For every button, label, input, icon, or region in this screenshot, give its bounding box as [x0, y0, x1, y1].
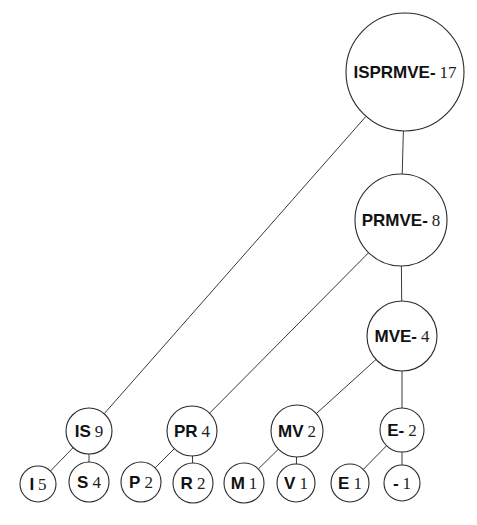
node-symbols: PRMVE-: [362, 211, 428, 230]
node-symbols: PR: [174, 422, 198, 441]
node-label: ISPRMVE-17: [353, 63, 457, 82]
tree-node: S4: [69, 462, 109, 502]
node-count: 1: [403, 474, 412, 493]
tree-edge: [104, 116, 366, 413]
node-count: 8: [432, 211, 441, 230]
node-symbols: E: [338, 474, 349, 493]
node-label: E-2: [387, 421, 417, 440]
node-symbols: P: [129, 473, 140, 492]
tree-node: -1: [384, 465, 420, 501]
tree-node: P2: [121, 462, 161, 502]
node-count: 2: [308, 422, 317, 441]
node-circle: [121, 462, 161, 502]
node-label: -1: [393, 474, 411, 493]
huffman-tree-diagram: ISPRMVE-17PRMVE-8MVE-4IS9PR4MV2E-2I5S4P2…: [0, 0, 477, 525]
node-circle: [331, 464, 369, 502]
tree-node: PR4: [167, 406, 217, 456]
node-count: 2: [144, 473, 153, 492]
node-count: 1: [299, 474, 308, 493]
node-count: 17: [440, 63, 458, 82]
node-count: 1: [249, 474, 258, 493]
tree-node: I5: [20, 466, 56, 502]
node-symbols: M: [231, 474, 245, 493]
tree-node: E1: [331, 464, 369, 502]
node-label: IS9: [75, 422, 104, 441]
node-symbols: -: [393, 474, 399, 493]
node-count: 9: [95, 422, 104, 441]
node-symbols: IS: [75, 422, 91, 441]
node-symbols: MVE-: [375, 327, 418, 346]
tree-edge: [51, 448, 74, 471]
node-symbols: V: [284, 474, 296, 493]
node-label: I5: [29, 475, 46, 494]
node-label: PR4: [174, 422, 211, 441]
node-label: M1: [231, 474, 258, 493]
tree-node: R2: [173, 463, 213, 503]
node-circle: [277, 464, 315, 502]
tree-edge: [210, 253, 369, 414]
node-symbols: E-: [387, 421, 404, 440]
node-count: 2: [197, 474, 206, 493]
tree-node: V1: [277, 464, 315, 502]
tree-edge: [316, 360, 376, 414]
node-count: 4: [92, 473, 101, 492]
tree-edge: [363, 446, 386, 470]
tree-node: PRMVE-8: [355, 174, 447, 266]
tree-node: IS9: [66, 408, 112, 454]
node-count: 4: [421, 327, 430, 346]
node-symbols: S: [77, 473, 88, 492]
node-count: 4: [202, 422, 211, 441]
tree-edge: [258, 449, 278, 469]
node-count: 2: [408, 421, 417, 440]
node-symbols: MV: [278, 422, 304, 441]
node-symbols: R: [181, 474, 193, 493]
node-symbols: I: [29, 475, 34, 494]
node-label: MV2: [278, 422, 316, 441]
node-circle: [173, 463, 213, 503]
node-count: 1: [353, 474, 362, 493]
node-circle: [69, 462, 109, 502]
tree-edge: [402, 131, 403, 174]
node-symbols: ISPRMVE-: [353, 63, 435, 82]
tree-nodes: ISPRMVE-17PRMVE-8MVE-4IS9PR4MV2E-2I5S4P2…: [20, 13, 464, 503]
tree-node: M1: [224, 463, 264, 503]
node-count: 5: [38, 475, 47, 494]
tree-node: MV2: [271, 405, 323, 457]
node-label: MVE-4: [375, 327, 431, 346]
tree-node: E-2: [380, 408, 424, 452]
tree-node: MVE-4: [367, 301, 437, 371]
tree-node: ISPRMVE-17: [346, 13, 464, 131]
tree-edge: [155, 449, 174, 468]
